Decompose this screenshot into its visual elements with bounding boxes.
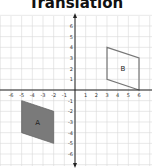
shape-b-label: B <box>121 65 126 73</box>
grid-lines <box>0 15 152 166</box>
svg-text:-1: -1 <box>62 92 67 98</box>
svg-text:-5: -5 <box>68 140 73 146</box>
svg-text:3: 3 <box>105 92 108 98</box>
svg-text:-6: -6 <box>68 151 73 157</box>
y-axis-arrow-down-icon <box>73 163 77 168</box>
svg-text:2: 2 <box>70 66 73 72</box>
svg-text:-4: -4 <box>30 92 35 98</box>
svg-text:-1: -1 <box>68 98 73 104</box>
svg-text:-3: -3 <box>68 119 73 125</box>
svg-text:-6: -6 <box>8 92 13 98</box>
svg-text:-2: -2 <box>51 92 56 98</box>
svg-text:5: 5 <box>127 92 130 98</box>
svg-text:3: 3 <box>70 55 73 61</box>
svg-text:6: 6 <box>70 23 73 29</box>
svg-text:4: 4 <box>116 92 119 98</box>
svg-text:6: 6 <box>137 92 140 98</box>
svg-text:-5: -5 <box>19 92 24 98</box>
svg-text:-2: -2 <box>68 108 73 114</box>
svg-text:1: 1 <box>70 76 73 82</box>
shape-a-label: A <box>35 119 40 127</box>
coordinate-plane: A B -6-5-4-3-2-1123456 654321-1-2-3-4-5-… <box>0 0 152 168</box>
svg-text:5: 5 <box>70 34 73 40</box>
svg-text:-3: -3 <box>40 92 45 98</box>
svg-text:4: 4 <box>70 44 73 50</box>
svg-text:-4: -4 <box>68 130 73 136</box>
svg-text:1: 1 <box>84 92 87 98</box>
svg-text:2: 2 <box>95 92 98 98</box>
